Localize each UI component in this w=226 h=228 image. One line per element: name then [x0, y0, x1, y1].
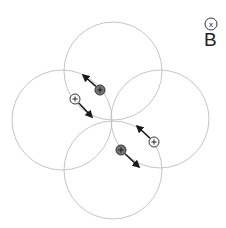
diagram-canvas: x — [0, 0, 226, 228]
velocity-arrow-icon — [137, 126, 150, 138]
velocity-arrow-icon — [83, 75, 96, 86]
velocity-arrow-icon — [79, 103, 92, 117]
orbit-circle-left — [12, 70, 112, 170]
magnetic-field-label: B — [204, 30, 217, 49]
particle-open-right — [149, 137, 159, 147]
particle-open-left — [70, 94, 80, 104]
particle-filled-top — [95, 85, 105, 95]
velocity-arrow-icon — [125, 154, 139, 167]
particle-filled-bottom — [116, 145, 126, 155]
orbit-circles — [12, 22, 209, 219]
cross-icon: x — [209, 20, 213, 29]
